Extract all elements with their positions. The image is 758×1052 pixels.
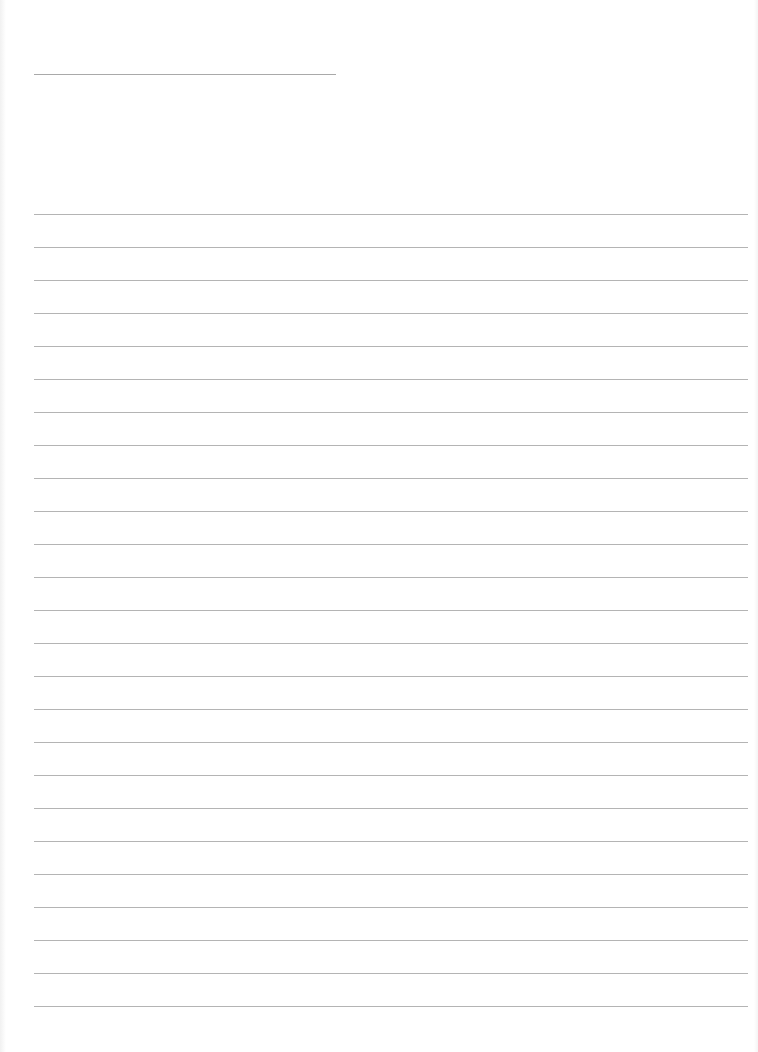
writing-line[interactable] <box>34 841 748 842</box>
writing-line[interactable] <box>34 379 748 380</box>
writing-line[interactable] <box>34 577 748 578</box>
writing-line[interactable] <box>34 445 748 446</box>
writing-line[interactable] <box>34 775 748 776</box>
writing-line[interactable] <box>34 808 748 809</box>
writing-line[interactable] <box>34 709 748 710</box>
page-right-edge <box>754 0 758 1052</box>
writing-line[interactable] <box>34 412 748 413</box>
writing-line[interactable] <box>34 907 748 908</box>
writing-line[interactable] <box>34 247 748 248</box>
writing-line[interactable] <box>34 313 748 314</box>
writing-line[interactable] <box>34 346 748 347</box>
writing-line[interactable] <box>34 544 748 545</box>
writing-line[interactable] <box>34 214 748 215</box>
writing-line[interactable] <box>34 478 748 479</box>
writing-line[interactable] <box>34 940 748 941</box>
writing-line[interactable] <box>34 511 748 512</box>
writing-lines <box>34 0 748 1052</box>
writing-line[interactable] <box>34 676 748 677</box>
writing-line[interactable] <box>34 610 748 611</box>
page-left-edge <box>0 0 6 1052</box>
writing-line[interactable] <box>34 742 748 743</box>
writing-line[interactable] <box>34 643 748 644</box>
writing-line[interactable] <box>34 874 748 875</box>
writing-line[interactable] <box>34 973 748 974</box>
writing-line[interactable] <box>34 1006 748 1007</box>
writing-line[interactable] <box>34 280 748 281</box>
